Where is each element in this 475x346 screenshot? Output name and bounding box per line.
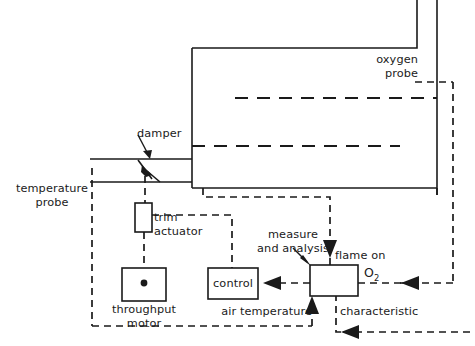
damper-pivot-marker bbox=[141, 165, 152, 177]
stack-left-wall bbox=[192, 0, 417, 48]
throughput-motor-shaft-dot bbox=[141, 280, 148, 287]
trim-actuator-label: trim actuator bbox=[154, 211, 202, 238]
trim-actuator-box bbox=[135, 203, 152, 232]
control-label: control bbox=[208, 277, 258, 291]
throughput-motor-label: throughput motor bbox=[99, 303, 189, 330]
air-temperature-label: air temperature bbox=[190, 305, 312, 319]
o2-label-subscript: 2 bbox=[374, 273, 379, 283]
o2-label-text: O bbox=[364, 265, 374, 280]
characteristic-arrowhead bbox=[341, 325, 359, 339]
flame-on-label: flame on bbox=[335, 249, 385, 263]
o2-signal-arrowhead bbox=[401, 276, 419, 290]
o2-label: O2 bbox=[364, 266, 379, 285]
characteristic-label: characteristic bbox=[340, 305, 418, 319]
temperature-probe-label: temperature probe bbox=[8, 182, 96, 209]
measure-and-analysis-label: measure and analysis bbox=[249, 228, 337, 255]
combustion-control-diagram: oxygen probe damper temperature probe tr… bbox=[0, 0, 475, 346]
damper-leader-arrowhead bbox=[143, 150, 152, 159]
analysis-box bbox=[310, 265, 358, 296]
analysis-to-control-arrowhead bbox=[263, 276, 281, 290]
damper-label: damper bbox=[137, 127, 181, 141]
diagram-canvas bbox=[0, 0, 475, 346]
oxygen-probe-label: oxygen probe bbox=[344, 53, 418, 80]
analysis-leader-arrowhead bbox=[300, 255, 311, 266]
